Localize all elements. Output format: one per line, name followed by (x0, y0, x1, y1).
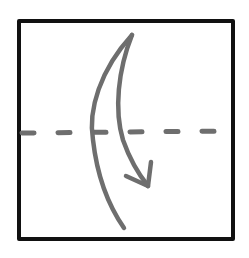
fold-diagram-canvas (0, 0, 249, 258)
fold-diagram: Valley fold in half, top to bottom (0, 0, 249, 258)
